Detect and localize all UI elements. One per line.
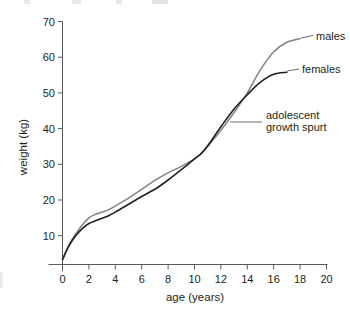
y-tick-label-20: 20: [43, 194, 55, 206]
x-tick-label-12: 12: [215, 273, 227, 285]
x-tick-label-4: 4: [112, 273, 118, 285]
x-tick-label-16: 16: [268, 273, 280, 285]
y-axis-tick-labels: 70 60 50 40 30 20 10: [43, 16, 55, 242]
x-axis: [49, 265, 328, 270]
y-axis-title: weight (kg): [17, 119, 29, 176]
annotation-females: females: [287, 63, 341, 75]
y-tick-label-10: 10: [43, 230, 55, 242]
series-line-males: [63, 39, 301, 260]
annotation-label-females: females: [302, 63, 341, 75]
y-tick-label-50: 50: [43, 87, 55, 99]
y-tick-label-60: 60: [43, 51, 55, 63]
annotation-label-spurt-line1: adolescent: [266, 109, 319, 121]
annotation-males: males: [301, 30, 346, 42]
x-tick-label-14: 14: [241, 273, 253, 285]
x-axis-tick-labels: 0 2 4 6 8 10 12 14 16 18 20: [59, 273, 332, 285]
annotation-growth-spurt: adolescent growth spurt: [230, 109, 327, 133]
x-tick-label-6: 6: [139, 273, 145, 285]
y-axis: [58, 22, 63, 272]
x-tick-label-8: 8: [165, 273, 171, 285]
series-line-females: [63, 72, 287, 259]
x-tick-label-2: 2: [86, 273, 92, 285]
x-tick-label-10: 10: [188, 273, 200, 285]
y-tick-label-40: 40: [43, 123, 55, 135]
y-tick-label-70: 70: [43, 16, 55, 28]
x-tick-label-20: 20: [320, 273, 332, 285]
annotation-label-males: males: [316, 30, 346, 42]
plot-curves: [63, 39, 301, 260]
y-tick-label-30: 30: [43, 158, 55, 170]
x-axis-title: age (years): [166, 291, 224, 303]
annotation-label-spurt-line2: growth spurt: [266, 121, 327, 133]
x-tick-label-0: 0: [59, 273, 65, 285]
x-tick-label-18: 18: [294, 273, 306, 285]
growth-chart: 70 60 50 40 30 20 10 weight (kg) 0 2 4 6…: [0, 0, 350, 311]
